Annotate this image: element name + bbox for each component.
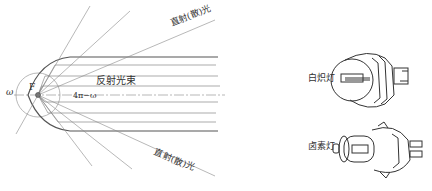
reflector-diagram	[0, 0, 432, 191]
omega-label: ω	[6, 88, 13, 97]
reflected-beam-label: 反射光束	[96, 76, 136, 86]
halogen-label: 卤素灯	[308, 142, 335, 151]
reflected-rays	[42, 65, 220, 122]
incandescent-label: 白炽灯	[308, 74, 335, 83]
solid-angle-label: 4π−ω	[73, 92, 97, 100]
focus-label: F	[29, 83, 35, 92]
focus-point	[36, 93, 41, 98]
incandescent-bulb-icon	[331, 53, 408, 107]
direct-rays	[16, 6, 215, 176]
halogen-bulb-icon	[333, 122, 422, 178]
